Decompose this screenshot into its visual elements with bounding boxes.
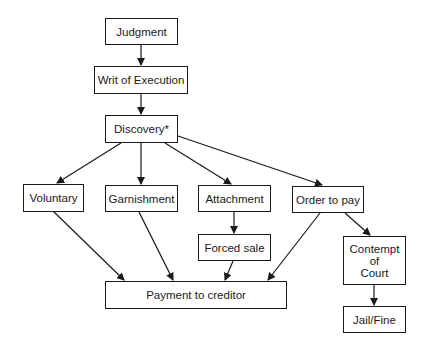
node-garnishment: Garnishment (105, 185, 178, 212)
edge-discovery-order (178, 136, 322, 185)
edge-order-payment (268, 213, 320, 280)
node-label: Voluntary (30, 192, 78, 204)
node-order-to-pay: Order to pay (292, 186, 364, 213)
edge-forced-payment (225, 261, 233, 280)
node-label: Discovery* (114, 123, 169, 135)
node-writ-of-execution: Writ of Execution (94, 66, 188, 94)
node-label: Contempt of Court (350, 243, 400, 279)
node-label: Attachment (205, 193, 263, 205)
node-label: Garnishment (109, 193, 175, 205)
node-label: Writ of Execution (98, 74, 185, 86)
edge-discovery-attachment (165, 143, 231, 184)
node-contempt-of-court: Contempt of Court (343, 236, 406, 285)
node-label: Judgment (116, 26, 167, 38)
node-payment-to-creditor: Payment to creditor (105, 281, 287, 309)
node-label: Order to pay (296, 194, 360, 206)
node-forced-sale: Forced sale (198, 234, 271, 261)
edge-order-contempt (345, 213, 370, 235)
node-discovery: Discovery* (105, 115, 178, 143)
node-voluntary: Voluntary (23, 184, 84, 212)
edge-voluntary-payment (53, 211, 124, 280)
node-label: Jail/Fine (353, 314, 396, 326)
node-attachment: Attachment (198, 185, 271, 212)
node-judgment: Judgment (105, 18, 178, 45)
node-jail-fine: Jail/Fine (343, 306, 406, 333)
edge-garnishment-payment (139, 212, 173, 280)
edge-discovery-voluntary (57, 143, 121, 183)
node-label: Payment to creditor (146, 289, 246, 301)
node-label: Forced sale (204, 242, 264, 254)
